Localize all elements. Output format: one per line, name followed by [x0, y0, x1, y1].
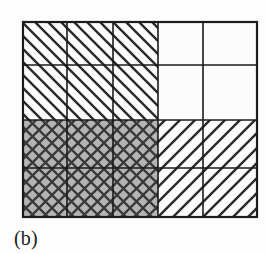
grid-diagram: [0, 0, 266, 254]
region-top-left: [23, 22, 158, 120]
figure-caption: (b): [14, 226, 38, 250]
region-top-right: [158, 22, 257, 120]
figure-container: (b): [0, 0, 266, 254]
